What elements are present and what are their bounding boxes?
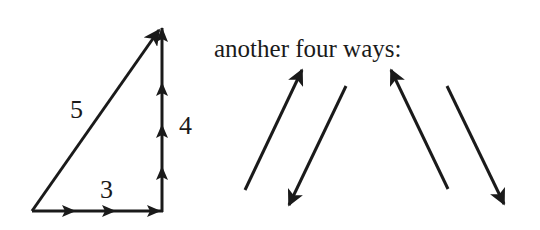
diagram-canvas: 5 4 3 another four ways: [0, 0, 540, 230]
hypotenuse-vector [32, 30, 159, 211]
arrow-up-left [391, 70, 448, 189]
vertical-label: 4 [179, 113, 192, 139]
arrow-down-right [447, 86, 504, 204]
caption-text: another four ways: [214, 36, 401, 61]
vertical-vector [156, 27, 168, 212]
horizontal-label: 3 [100, 177, 113, 203]
horizontal-vector [32, 205, 163, 217]
four-ways-arrows [245, 70, 504, 205]
arrow-up-right [245, 70, 302, 190]
arrow-down-left [289, 86, 346, 205]
hypotenuse-label: 5 [70, 97, 83, 123]
